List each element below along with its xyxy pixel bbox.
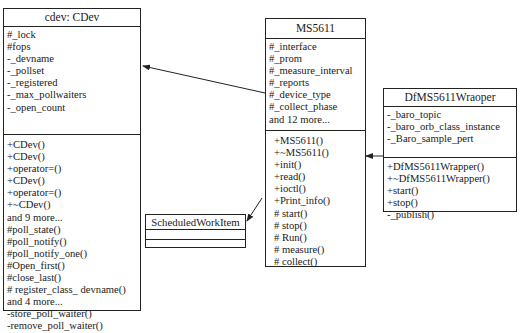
operation: #close_last() bbox=[7, 272, 140, 284]
attribute: #_lock bbox=[7, 29, 140, 41]
operation: +read() bbox=[274, 171, 365, 183]
attribute: -_devname bbox=[7, 53, 140, 65]
operation: +~DfMS5611Wrapper() bbox=[387, 173, 516, 185]
attribute: -_registered bbox=[7, 77, 140, 89]
operation: +DfMS5611Wrapper() bbox=[387, 161, 516, 173]
operation: # start() bbox=[274, 208, 365, 220]
operation: # Run() bbox=[274, 232, 365, 244]
operation: +MS5611() bbox=[274, 135, 365, 147]
class-scheduled-work-item[interactable]: ScheduledWorkItem bbox=[145, 214, 246, 248]
attribute: #_prom bbox=[269, 53, 365, 65]
class-name: DfMS5611Wraoper bbox=[384, 89, 516, 107]
operation: +Print_info() bbox=[274, 195, 365, 207]
attributes-section: #_interface #_prom #_measure_interval #_… bbox=[266, 39, 365, 131]
attribute: #_device_type bbox=[269, 89, 365, 101]
operation: # measure() bbox=[274, 244, 365, 256]
operation: #poll_state() bbox=[7, 224, 140, 236]
class-ms5611[interactable]: MS5611 #_interface #_prom #_measure_inte… bbox=[265, 18, 366, 267]
operation: # collect() bbox=[274, 256, 365, 268]
operation: #poll_notify() bbox=[7, 236, 140, 248]
operation: -remove_poll_waiter() bbox=[7, 320, 140, 332]
attribute: -_baro_orb_class_instance bbox=[387, 121, 516, 133]
attribute: #_measure_interval bbox=[269, 65, 365, 77]
attribute: #_collect_phase bbox=[269, 101, 365, 113]
operation: +CDev() bbox=[7, 139, 140, 151]
operation: -_publish() bbox=[387, 209, 516, 221]
operation: +~MS5611() bbox=[274, 147, 365, 159]
operation: -store_poll_waiter() bbox=[7, 308, 140, 320]
operation: +start() bbox=[387, 185, 516, 197]
attributes-section: -_baro_topic -_baro_orb_class_instance -… bbox=[384, 107, 516, 158]
operation: +CDev() bbox=[7, 151, 140, 163]
operation: +CDev() bbox=[7, 175, 140, 187]
operation: #poll_notify_one() bbox=[7, 248, 140, 260]
attribute: #_interface bbox=[269, 41, 365, 53]
attribute: #fops bbox=[7, 41, 140, 53]
operation: +stop() bbox=[387, 197, 516, 209]
arrow-ms5611-to-cdev bbox=[143, 66, 265, 93]
operations-section bbox=[146, 240, 245, 248]
operation: # register_class_ devname() bbox=[7, 284, 140, 296]
attributes-section: #_lock #fops -_devname -_pollset -_regis… bbox=[4, 27, 140, 135]
attribute: -_max_pollwaiters bbox=[7, 89, 140, 101]
attribute: -_baro_topic bbox=[387, 109, 516, 121]
operation: +ioctl() bbox=[274, 183, 365, 195]
operation: and 4 more... bbox=[7, 296, 140, 308]
attribute: #_reports bbox=[269, 77, 365, 89]
class-dfms5611-wrapper[interactable]: DfMS5611Wraoper -_baro_topic -_baro_orb_… bbox=[383, 88, 517, 212]
operation: +~CDev() bbox=[7, 199, 140, 211]
attribute: -_pollset bbox=[7, 65, 140, 77]
operation: #Open_first() bbox=[7, 260, 140, 272]
arrow-ms5611-to-scheduled bbox=[247, 198, 262, 221]
operations-section: +DfMS5611Wrapper() +~DfMS5611Wrapper() +… bbox=[384, 158, 516, 221]
operation: +operator=() bbox=[7, 163, 140, 175]
attribute: and 12 more... bbox=[269, 114, 365, 126]
attribute: -_Baro_sample_pert bbox=[387, 133, 516, 145]
class-cdev[interactable]: cdev: CDev #_lock #fops -_devname -_poll… bbox=[3, 8, 141, 311]
operation: and 9 more... bbox=[7, 212, 140, 224]
class-name: cdev: CDev bbox=[4, 9, 140, 27]
operation: +operator=() bbox=[7, 187, 140, 199]
class-name: ScheduledWorkItem bbox=[146, 215, 245, 230]
operation: +init() bbox=[274, 159, 365, 171]
operation: # stop() bbox=[274, 220, 365, 232]
attribute: -_open_count bbox=[7, 102, 140, 114]
attributes-section bbox=[146, 230, 245, 240]
operations-section: +MS5611() +~MS5611() +init() +read() +io… bbox=[266, 131, 365, 268]
class-name: MS5611 bbox=[266, 19, 365, 39]
operations-section: +CDev() +CDev() +operator=() +CDev() +op… bbox=[4, 135, 140, 333]
